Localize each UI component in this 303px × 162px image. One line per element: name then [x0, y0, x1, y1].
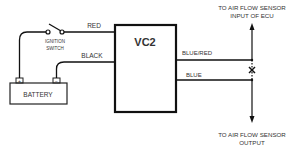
junction-blue-red: [251, 59, 253, 61]
red-wire-label: RED: [87, 22, 101, 29]
black-wire: [57, 62, 116, 78]
battery-positive-sign: +: [18, 78, 21, 84]
ignition-switch-lever: [49, 24, 61, 31]
vc2-label: VC2: [134, 36, 155, 48]
top-destination-line1: TO AIR FLOW SENSOR: [218, 4, 286, 11]
ignition-switch-label-1: IGNITION: [45, 39, 65, 44]
junction-blue: [251, 79, 253, 81]
blue-red-wire-label: BLUE/RED: [182, 50, 213, 56]
ignition-switch-label-2: SWITCH: [46, 46, 64, 51]
arrow-up-icon: [250, 23, 255, 30]
battery-label: BATTERY: [23, 91, 53, 98]
top-destination-line2: INPUT OF ECU: [230, 12, 274, 19]
battery-negative-sign: −: [55, 78, 58, 84]
switch-contact-left: [46, 30, 50, 34]
arrow-down-icon: [250, 116, 255, 123]
red-wire-to-switch: [20, 32, 47, 78]
bottom-destination-line2: OUTPUT: [239, 139, 265, 146]
blue-wire-label: BLUE: [186, 72, 202, 78]
bottom-destination-line1: TO AIR FLOW SENSOR: [218, 131, 286, 138]
black-wire-label: BLACK: [81, 52, 103, 59]
wiring-diagram: VC2 + − BATTERY RED IGNITION SWITCH BLAC…: [0, 0, 303, 162]
